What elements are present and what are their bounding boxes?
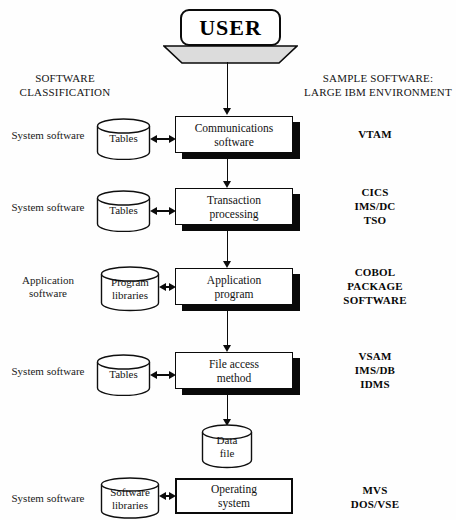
arrowhead-application-to-file-access — [223, 345, 231, 352]
classification-row-2-line1: System software — [0, 201, 96, 214]
process-row-1-line2: software — [214, 135, 254, 149]
process-row-3-line1: Application — [207, 273, 261, 287]
user-terminal-base — [163, 45, 298, 64]
classification-label-row-3: Application software — [0, 274, 96, 300]
classification-row-4-line1: System software — [0, 365, 96, 378]
datastore-software-libraries: Software libraries — [100, 477, 160, 520]
process-row-2-line1: Transaction — [207, 193, 261, 207]
user-label: USER — [199, 15, 262, 41]
classification-row-3-line1: Application — [0, 274, 96, 287]
classification-row-1-line1: System software — [0, 129, 96, 142]
sample-software-row-1: VTAM — [300, 127, 450, 141]
datastore-program-libraries: Program libraries — [100, 266, 160, 312]
process-application-program: Application program — [175, 268, 293, 305]
sample-row-3-item-2: SOFTWARE — [300, 293, 450, 307]
sample-row-3-item-1: PACKAGE — [300, 279, 450, 293]
classification-label-row-2: System software — [0, 201, 96, 214]
sample-row-5-item-1: DOS/VSE — [300, 497, 450, 511]
process-row-4-line2: method — [217, 371, 252, 385]
connector-user-to-communications — [227, 62, 229, 109]
arrowhead-user-to-communications — [223, 108, 231, 115]
sample-row-4-item-2: IDMS — [300, 377, 450, 391]
process-row-2-line2: processing — [209, 207, 258, 221]
column-heading-sample-software: SAMPLE SOFTWARE: LARGE IBM ENVIRONMENT — [300, 72, 456, 99]
sample-row-1-item-0: VTAM — [300, 127, 450, 141]
classification-label-row-4: System software — [0, 365, 96, 378]
process-row-5-line1: Operating — [211, 482, 257, 496]
classification-row-3-line2: software — [0, 287, 96, 300]
process-row-4-line1: File access — [209, 357, 259, 371]
classification-heading-line2: CLASSIFICATION — [0, 86, 130, 100]
sample-software-row-2: CICS IMS/DC TSO — [300, 185, 450, 227]
process-file-access-method: File access method — [175, 352, 293, 389]
sample-heading-line2: LARGE IBM ENVIRONMENT — [300, 86, 456, 100]
datastore-data-file: Data file — [201, 424, 253, 469]
process-row-1-line1: Communications — [195, 121, 274, 135]
sample-software-row-5: MVS DOS/VSE — [300, 483, 450, 511]
connector-file-access-to-data-file — [227, 395, 229, 421]
column-heading-classification: SOFTWARE CLASSIFICATION — [0, 72, 130, 99]
sample-row-5-item-0: MVS — [300, 483, 450, 497]
classification-label-row-5: System software — [0, 492, 96, 505]
sample-software-row-4: VSAM IMS/DB IDMS — [300, 349, 450, 391]
datastore-tables-row-1: Tables — [96, 118, 151, 160]
process-communications-software: Communications software — [175, 116, 293, 153]
connector-application-to-file-access — [227, 311, 229, 346]
sample-row-2-item-1: IMS/DC — [300, 199, 450, 213]
diagram-canvas: USER SOFTWARE CLASSIFICATION SAMPLE SOFT… — [0, 0, 456, 520]
process-transaction-processing: Transaction processing — [175, 188, 293, 225]
sample-heading-line1: SAMPLE SOFTWARE: — [300, 72, 456, 86]
classification-heading-line1: SOFTWARE — [0, 72, 130, 86]
process-row-5-line2: system — [218, 496, 250, 510]
classification-label-row-1: System software — [0, 129, 96, 142]
sample-software-row-3: COBOL PACKAGE SOFTWARE — [300, 265, 450, 307]
arrowhead-communications-to-transaction — [223, 181, 231, 188]
datastore-tables-row-4: Tables — [96, 354, 151, 396]
datastore-program-libraries-label: Program libraries — [100, 276, 160, 302]
datastore-data-file-label: Data file — [201, 434, 253, 460]
process-row-3-line2: program — [215, 287, 254, 301]
classification-row-5-line1: System software — [0, 492, 96, 505]
sample-row-3-item-0: COBOL — [300, 265, 450, 279]
connector-communications-to-transaction — [227, 159, 229, 182]
sample-row-2-item-0: CICS — [300, 185, 450, 199]
datastore-software-libraries-label: Software libraries — [100, 486, 160, 512]
arrowhead-transaction-to-application — [223, 261, 231, 268]
user-terminal-screen: USER — [180, 9, 281, 46]
sample-row-2-item-2: TSO — [300, 213, 450, 227]
connector-transaction-to-application — [227, 231, 229, 262]
sample-row-4-item-0: VSAM — [300, 349, 450, 363]
sample-row-4-item-1: IMS/DB — [300, 363, 450, 377]
datastore-tables-row-1-label: Tables — [96, 132, 151, 145]
process-operating-system: Operating system — [175, 478, 293, 514]
datastore-tables-row-4-label: Tables — [96, 368, 151, 381]
datastore-tables-row-2: Tables — [96, 190, 151, 232]
datastore-tables-row-2-label: Tables — [96, 204, 151, 217]
